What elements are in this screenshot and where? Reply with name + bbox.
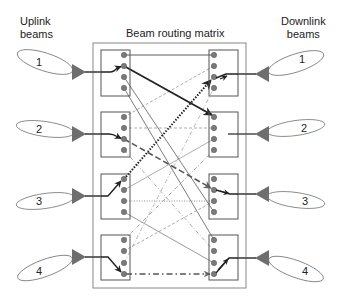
downlink-beam-2: 2 [238, 117, 326, 142]
uplink-switch-1 [101, 50, 130, 96]
downlink-beam-1: 1 [238, 45, 326, 82]
downlink-beam-number-1: 1 [299, 53, 305, 65]
uplink-inputs [85, 67, 121, 273]
uplink-beam-number-2: 2 [36, 123, 42, 135]
uplink-beam-number-1: 1 [36, 56, 42, 68]
downlink-beam-4: 4 [238, 250, 326, 287]
uplink-beam-3: 3 [15, 188, 101, 212]
downlink-beam-number-4: 4 [302, 265, 308, 277]
uplink-beam-1: 1 [15, 44, 101, 80]
downlink-switch-3 [209, 174, 238, 219]
uplink-beam-4: 4 [15, 249, 101, 286]
downlink-beam-number-2: 2 [301, 122, 307, 134]
downlink-beam-3: 3 [238, 186, 326, 211]
beam-routing-diagram: 1 2 3 4 1 2 3 4 [0, 0, 341, 301]
uplink-beam-number-3: 3 [36, 195, 42, 207]
routing-lines [124, 55, 214, 274]
downlink-beam-number-3: 3 [302, 195, 308, 207]
uplink-beam-number-4: 4 [36, 265, 42, 277]
uplink-beam-2: 2 [15, 118, 101, 142]
downlink-switch-1 [209, 50, 238, 96]
